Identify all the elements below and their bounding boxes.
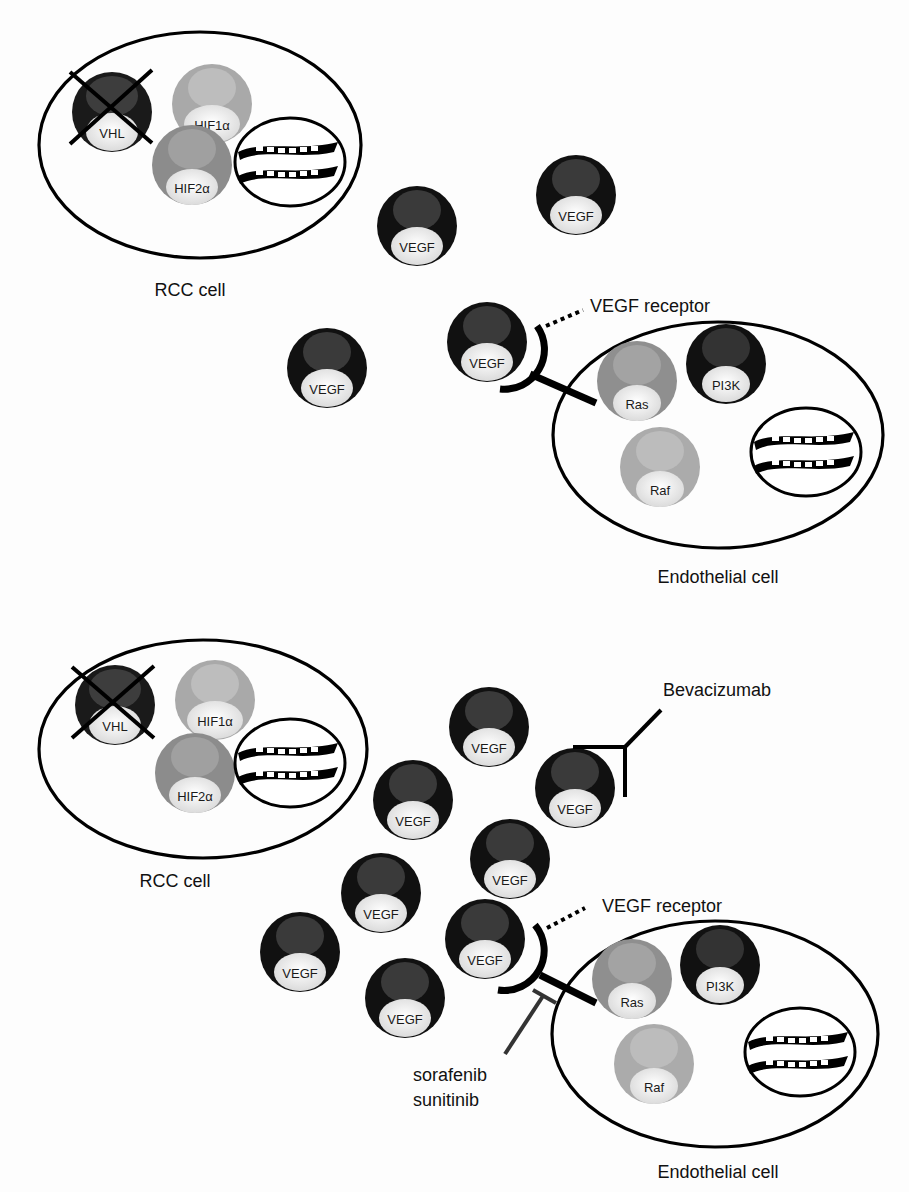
svg-text:VEGF: VEGF <box>467 953 502 968</box>
vegf-molecule: VEGF <box>373 760 453 840</box>
nucleus-rcc-top <box>235 118 345 206</box>
rcc-cell-label: RCC cell <box>139 871 210 891</box>
svg-text:VEGF: VEGF <box>492 873 527 888</box>
vegf-molecule: VEGF <box>377 186 457 266</box>
vegf-molecule: VEGF <box>365 958 445 1038</box>
svg-text:Raf: Raf <box>644 1080 665 1095</box>
rcc-cell-top: VHL HIF1α HIF2α <box>39 32 361 258</box>
endothelial-cell-label: Endothelial cell <box>657 567 778 587</box>
svg-text:HIF2α: HIF2α <box>174 181 210 196</box>
inhibitor-tbar-icon <box>505 990 556 1054</box>
ras-molecule: Ras <box>597 341 677 421</box>
svg-text:VEGF: VEGF <box>469 356 504 371</box>
hif2a-molecule: HIF2α <box>155 733 235 813</box>
endothelial-cell-bottom: Ras PI3K Raf <box>552 921 878 1147</box>
svg-text:HIF2α: HIF2α <box>177 789 213 804</box>
sorafenib-label: sorafenib <box>413 1065 487 1085</box>
vegf-molecule-bound: VEGF <box>447 302 527 382</box>
hif1a-molecule: HIF1α <box>175 660 255 740</box>
raf-molecule: Raf <box>614 1024 694 1104</box>
nucleus-rcc-bottom <box>235 719 345 807</box>
svg-text:Ras: Ras <box>620 995 644 1010</box>
vegf-molecule: VEGF <box>470 819 550 899</box>
raf-molecule: Raf <box>620 427 700 507</box>
sunitinib-label: sunitinib <box>413 1090 479 1110</box>
vegf-molecule: VEGF <box>341 853 421 933</box>
svg-text:VEGF: VEGF <box>363 907 398 922</box>
panel-top: VHL HIF1α HIF2α <box>39 32 883 587</box>
svg-text:VEGF: VEGF <box>387 1012 422 1027</box>
rcc-cell-label: RCC cell <box>154 280 225 300</box>
ras-molecule: Ras <box>592 939 672 1019</box>
svg-text:VEGF: VEGF <box>309 382 344 397</box>
vegf-molecules-top: VEGF VEGF VEGF VEGF <box>287 155 616 408</box>
vegf-molecule-bound: VEGF <box>445 899 525 979</box>
hif2a-molecule: HIF2α <box>152 125 232 205</box>
diagram-canvas: VHL HIF1α HIF2α <box>0 0 909 1192</box>
svg-text:PI3K: PI3K <box>706 979 735 994</box>
vegf-molecule-antibody-bound: VEGF <box>535 748 615 828</box>
vegf-molecule: VEGF <box>536 155 616 235</box>
svg-text:VEGF: VEGF <box>471 741 506 756</box>
pi3k-molecule: PI3K <box>686 324 766 404</box>
svg-text:PI3K: PI3K <box>712 378 741 393</box>
nucleus-endothelial-bottom <box>745 1008 855 1096</box>
endothelial-cell-label: Endothelial cell <box>657 1162 778 1182</box>
nucleus-endothelial-top <box>751 408 861 496</box>
vegf-receptor-label: VEGF receptor <box>602 896 722 916</box>
svg-text:VEGF: VEGF <box>557 802 592 817</box>
svg-text:VEGF: VEGF <box>558 209 593 224</box>
svg-text:Raf: Raf <box>650 483 671 498</box>
svg-text:VEGF: VEGF <box>395 814 430 829</box>
svg-text:VEGF: VEGF <box>282 966 317 981</box>
svg-text:Ras: Ras <box>625 397 649 412</box>
vegf-receptor-label: VEGF receptor <box>590 296 710 316</box>
svg-text:HIF1α: HIF1α <box>197 714 233 729</box>
svg-text:VHL: VHL <box>99 126 124 141</box>
vegf-molecule: VEGF <box>260 912 340 992</box>
svg-text:VEGF: VEGF <box>399 240 434 255</box>
vegf-molecule: VEGF <box>449 687 529 767</box>
vegf-molecule: VEGF <box>287 328 367 408</box>
endothelial-cell-top: Ras PI3K Raf <box>553 322 883 548</box>
bevacizumab-label: Bevacizumab <box>663 680 771 700</box>
panel-bottom: VHL HIF1α HIF2α RCC cell <box>39 640 878 1182</box>
pi3k-molecule: PI3K <box>680 925 760 1005</box>
svg-text:VHL: VHL <box>102 719 127 734</box>
rcc-cell-bottom: VHL HIF1α HIF2α <box>39 640 367 858</box>
